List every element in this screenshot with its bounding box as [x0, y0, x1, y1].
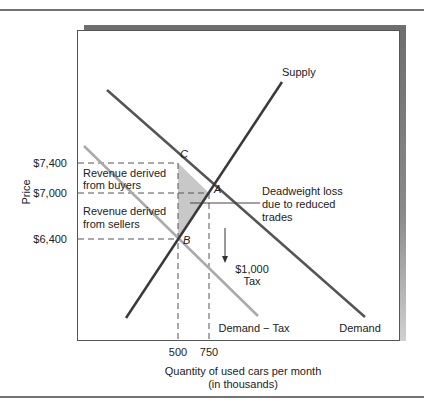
tax-amount-label: $1,000 [235, 263, 269, 275]
point-a-label: A [213, 183, 221, 195]
ytick-7400: $7,400 [33, 157, 67, 169]
buyers-label-line1: Revenue derived [83, 167, 166, 179]
x-axis-label: Quantity of used cars per month [165, 365, 322, 377]
dwl-label-line3: trades [262, 211, 293, 223]
frame-shadow-right [400, 25, 406, 341]
ytick-7000: $7,000 [33, 187, 67, 199]
tax-label: Tax [243, 275, 261, 287]
x-axis-sublabel: (in thousands) [208, 378, 278, 390]
xtick-750: 750 [200, 346, 218, 358]
point-c-label: C [180, 148, 188, 160]
point-b-label: B [183, 234, 190, 246]
buyers-label-line2: from buyers [83, 179, 142, 191]
sellers-label-line2: from sellers [83, 218, 140, 230]
sellers-label-line1: Revenue derived [83, 205, 166, 217]
ytick-6400: $6,400 [33, 233, 67, 245]
dwl-label-line1: Deadweight loss [262, 185, 343, 197]
demand-minus-tax-label: Demand − Tax [218, 322, 290, 334]
xtick-500: 500 [169, 346, 187, 358]
y-axis-label: Price [20, 179, 32, 204]
tax-incidence-chart: $7,400 $7,000 $6,400 Price 500 750 Quant… [0, 0, 424, 407]
supply-label: Supply [282, 66, 316, 78]
demand-label: Demand [339, 322, 381, 334]
dwl-label-line2: due to reduced [262, 198, 335, 210]
